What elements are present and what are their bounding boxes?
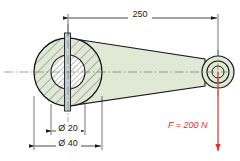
technical-drawing-svg: 250 Ø 20 Ø 40 F = 200 N xyxy=(0,0,240,161)
dim-20-label: Ø 20 xyxy=(58,123,78,133)
force-label: F = 200 N xyxy=(168,120,208,130)
drawing-canvas: 250 Ø 20 Ø 40 F = 200 N xyxy=(0,0,240,161)
dim-40-label: Ø 40 xyxy=(58,138,78,148)
dim-250-label: 250 xyxy=(132,9,147,19)
